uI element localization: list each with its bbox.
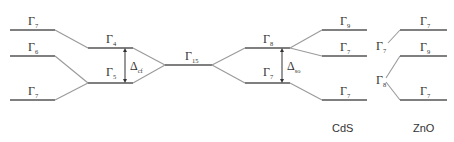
label-delta-so: Δso (287, 59, 301, 74)
left-levels: Γ7 Γ6 Γ7 (10, 14, 55, 100)
label-gamma4: Γ4 (106, 32, 117, 47)
label-delta-cf: Δcf (130, 59, 144, 74)
center-level: Γ15 (165, 49, 212, 65)
connector (290, 30, 322, 48)
label-cds-title: CdS (332, 122, 353, 134)
label-gamma7-so: Γ7 (263, 65, 274, 80)
spin-orbit-levels: Γ8 Γ7 Δso (245, 32, 301, 83)
connectors-left (55, 30, 88, 100)
label-zno-branch-gamma8: Γ8 (376, 73, 386, 88)
label-left-1: Γ6 (28, 40, 39, 55)
connector (386, 82, 400, 100)
connector (55, 56, 88, 83)
label-left-2: Γ7 (28, 84, 39, 99)
connector (290, 83, 322, 100)
cds-levels: Γ9 Γ7 Γ7 CdS (322, 14, 367, 134)
connector (133, 48, 165, 65)
label-cds-0: Γ9 (340, 14, 350, 29)
zno-levels: Γ7 Γ8 Γ7 Γ9 Γ7 ZnO (376, 14, 447, 134)
label-zno-branch-gamma7: Γ7 (376, 39, 387, 54)
connector (386, 56, 400, 78)
label-zno-title: ZnO (413, 122, 435, 134)
connector (388, 30, 400, 43)
label-cds-2: Γ7 (340, 84, 351, 99)
connector (55, 83, 88, 100)
band-splitting-diagram: Γ7 Γ6 Γ7 Γ4 Γ5 Δcf Γ15 Γ8 Γ7 (0, 0, 454, 142)
crystal-field-levels: Γ4 Γ5 Δcf (88, 32, 144, 83)
connectors-so-cds (290, 30, 322, 100)
label-gamma8: Γ8 (263, 32, 273, 47)
label-gamma5: Γ5 (106, 65, 116, 80)
label-zno-2: Γ7 (420, 84, 431, 99)
connector (290, 48, 322, 56)
label-left-0: Γ7 (28, 14, 39, 29)
connector (212, 65, 245, 83)
label-cds-1: Γ7 (340, 40, 351, 55)
label-zno-0: Γ7 (420, 14, 431, 29)
connectors-cf-center (133, 48, 165, 83)
label-gamma15: Γ15 (185, 49, 198, 64)
connector (212, 48, 245, 65)
connectors-center-so (212, 48, 245, 83)
label-zno-1: Γ9 (420, 40, 430, 55)
connector (55, 30, 88, 48)
